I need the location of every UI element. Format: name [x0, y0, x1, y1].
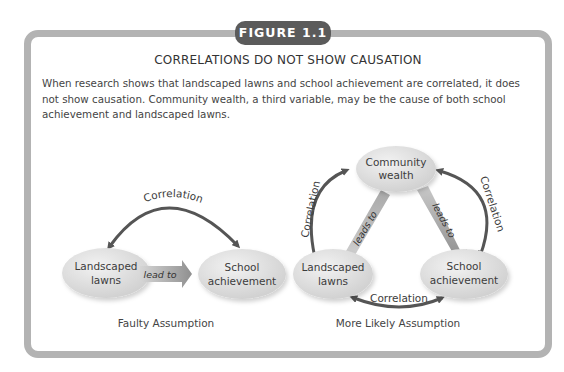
svg-text:wealth: wealth — [378, 169, 413, 181]
svg-text:Correlation: Correlation — [370, 292, 428, 304]
node-school-achievement — [198, 249, 286, 299]
svg-text:School: School — [225, 261, 260, 273]
faulty-caption: Faulty Assumption — [118, 317, 215, 329]
node-landscaped-lawns — [62, 248, 150, 298]
correlation-arrow — [110, 208, 238, 246]
svg-text:lead to: lead to — [144, 269, 177, 280]
node-landscaped-lawns — [293, 249, 373, 299]
correlation-label: Correlation — [142, 187, 205, 205]
svg-text:Landscaped: Landscaped — [301, 261, 364, 273]
diagram-canvas: Correlation Landscaped lawns School achi… — [0, 0, 564, 372]
svg-text:lawns: lawns — [91, 274, 121, 286]
svg-text:School: School — [447, 260, 482, 272]
likely-caption: More Likely Assumption — [336, 317, 461, 329]
svg-text:achievement: achievement — [430, 274, 498, 286]
likely-assumption-diagram: leads to leads to Correlation Correlatio… — [293, 146, 508, 329]
faulty-assumption-diagram: Correlation Landscaped lawns School achi… — [62, 187, 286, 329]
svg-text:Correlation: Correlation — [298, 180, 322, 239]
svg-text:Landscaped: Landscaped — [74, 260, 137, 272]
svg-text:achievement: achievement — [208, 275, 276, 287]
svg-text:Community: Community — [366, 156, 427, 168]
svg-text:lawns: lawns — [318, 275, 348, 287]
svg-text:leads to: leads to — [351, 209, 380, 247]
